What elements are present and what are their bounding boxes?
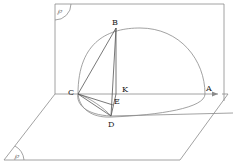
segment-CD	[78, 94, 111, 116]
geometry-diagram: B C K E D A ℘ ℘	[0, 0, 233, 168]
label-plane-horizontal: ℘	[14, 152, 20, 160]
label-A: A	[205, 84, 212, 93]
vertical-plane	[55, 4, 224, 101]
segments	[78, 28, 233, 116]
label-C: C	[68, 88, 74, 97]
label-E: E	[114, 97, 120, 106]
label-B: B	[112, 18, 118, 27]
label-D: D	[108, 120, 114, 129]
label-K: K	[122, 85, 129, 94]
label-plane-vertical: ℘	[57, 7, 63, 15]
arrow-icon	[212, 92, 218, 97]
segment-D-right	[111, 113, 233, 116]
line-CA	[78, 92, 218, 97]
lower-arc	[78, 94, 205, 117]
